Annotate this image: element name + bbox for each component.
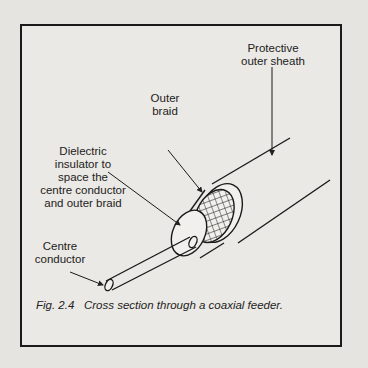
label-protective-outer-sheath: Protective outer sheath bbox=[238, 42, 308, 68]
label-dielectric-insulator: Dielectric insulator to space the centre… bbox=[28, 145, 138, 210]
figure-caption: Fig. 2.4 Cross section through a coaxial… bbox=[36, 299, 283, 311]
label-outer-braid: Outer braid bbox=[140, 92, 190, 118]
label-centre-conductor: Centre conductor bbox=[30, 240, 90, 266]
